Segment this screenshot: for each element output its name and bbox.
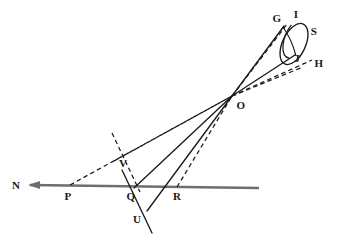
- label-O: O: [237, 100, 246, 111]
- label-H: H: [315, 58, 324, 69]
- diagram-canvas: [0, 0, 337, 248]
- line-N-R: [30, 185, 259, 188]
- label-S: S: [311, 26, 317, 37]
- label-J: J: [294, 53, 300, 64]
- label-G: G: [273, 13, 282, 24]
- label-R: R: [173, 191, 181, 202]
- label-V: V: [119, 158, 127, 169]
- label-P: P: [65, 191, 72, 202]
- label-I: I: [294, 9, 298, 20]
- dashed-cone-lower: [232, 60, 312, 96]
- arrowhead-N-icon: [28, 181, 40, 189]
- dashed-rays-group: [70, 96, 232, 192]
- label-U: U: [133, 214, 141, 225]
- label-Q: Q: [127, 191, 136, 202]
- segment-O-U: [147, 96, 232, 211]
- segment-O-G: [232, 26, 284, 96]
- ray-diagram-figure: N P Q R U V O G I S J H: [0, 0, 337, 248]
- label-N: N: [12, 180, 20, 191]
- segment-O-J: [232, 55, 295, 96]
- solid-rays-group: [122, 26, 295, 233]
- dashed-R-O: [177, 96, 232, 187]
- axis-line-group: [28, 181, 259, 189]
